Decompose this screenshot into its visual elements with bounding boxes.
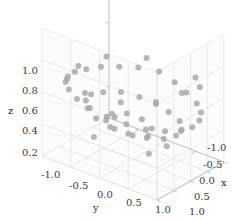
scatter-point <box>136 94 142 100</box>
scatter-point <box>83 66 89 72</box>
scatter-point <box>93 115 99 121</box>
scatter-point <box>66 86 72 92</box>
scatter-point <box>118 89 124 95</box>
z-tick-label: 1.0 <box>22 66 38 76</box>
scatter-point <box>166 109 172 115</box>
scatter-point <box>103 54 109 60</box>
scatter-point <box>112 126 118 132</box>
y-tick-label: -1.0 <box>41 170 60 180</box>
scatter-point <box>139 116 145 122</box>
scatter-point <box>173 133 179 139</box>
scatter-point <box>194 101 200 107</box>
scatter-point <box>63 79 69 85</box>
scatter-point <box>192 74 198 80</box>
y-tick-label: 0.5 <box>126 198 142 208</box>
scatter-point <box>100 89 106 95</box>
scatter-point <box>153 101 159 107</box>
scatter-point <box>130 132 136 138</box>
x-tick-label: -0.5 <box>203 160 222 170</box>
axis-panes <box>42 28 224 200</box>
scatter-point <box>116 64 122 70</box>
x-axis-title: x <box>221 178 227 188</box>
z-tick-label: 0.6 <box>22 106 38 116</box>
scatter-point <box>118 99 124 105</box>
scatter-point <box>65 73 71 79</box>
scatter-point <box>75 63 81 69</box>
scatter-point <box>198 109 204 115</box>
y-axis-title: y <box>93 203 99 213</box>
scatter-point <box>177 118 183 124</box>
scatter-point <box>91 134 97 140</box>
scatter-point <box>149 125 155 131</box>
scatter-point <box>98 64 104 70</box>
scatter-point <box>85 105 91 111</box>
z-axis-title: z <box>8 106 13 116</box>
scatter-point <box>144 55 150 61</box>
scatter-point <box>112 114 118 120</box>
scatter-point <box>103 118 109 124</box>
x-tick-label: 1.0 <box>189 207 205 217</box>
x-tick-label: 0.0 <box>199 176 215 186</box>
scatter-point <box>124 111 130 117</box>
scatter-point <box>183 90 189 96</box>
figure-canvas: 1.0 0.8 0.6 0.4 0.2 z -1.0 -0.5 0.0 0.5 … <box>0 0 250 220</box>
x-tick-label: 0.5 <box>194 192 210 202</box>
z-tick-label: 0.2 <box>22 148 38 158</box>
scatter-point <box>72 69 78 75</box>
scatter-point <box>172 79 178 85</box>
y-tick-label: 1.0 <box>155 205 171 215</box>
z-tick-label: 0.4 <box>22 126 38 136</box>
scatter-point <box>88 91 94 97</box>
scatter-point <box>179 127 185 133</box>
y-tick-label: 0.0 <box>97 190 113 200</box>
z-tick-label: 0.8 <box>22 86 38 96</box>
scatter-point <box>83 98 89 104</box>
scatter-point <box>164 143 170 149</box>
x-tick-label: -1.0 <box>207 143 226 153</box>
scatter-point <box>156 69 162 75</box>
scatter-point <box>135 64 141 70</box>
scatter-point <box>82 90 88 96</box>
scatter-point <box>74 96 80 102</box>
scatter-point <box>189 124 195 130</box>
scatter-point <box>143 127 149 133</box>
y-tick-label: -0.5 <box>69 181 88 191</box>
scatter-point <box>196 117 202 123</box>
scatter-point <box>197 84 203 90</box>
scatter-point <box>162 128 168 134</box>
scatter-point <box>161 136 167 142</box>
scatter-point <box>145 133 151 139</box>
scatter-point <box>146 151 152 157</box>
scatter-point <box>123 121 129 127</box>
